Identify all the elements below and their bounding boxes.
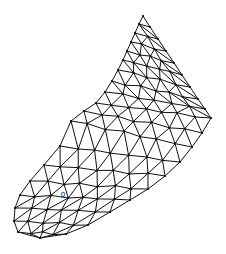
mesh-edge bbox=[110, 153, 113, 170]
mesh-node bbox=[72, 224, 74, 226]
mesh-edge bbox=[182, 75, 190, 87]
mesh-node bbox=[83, 110, 85, 112]
mesh-edge bbox=[148, 160, 163, 173]
mesh-node bbox=[101, 114, 103, 116]
mesh-node bbox=[176, 112, 178, 114]
mesh-node bbox=[146, 65, 148, 67]
mesh-node bbox=[96, 169, 98, 171]
mesh-edge bbox=[163, 160, 165, 176]
mesh-edge bbox=[48, 167, 60, 181]
mesh-node bbox=[165, 50, 167, 52]
mesh-edge bbox=[83, 197, 97, 199]
mesh-edge bbox=[127, 42, 131, 51]
mesh-node bbox=[147, 35, 149, 37]
mesh-edge bbox=[78, 210, 95, 212]
mesh-edge bbox=[124, 131, 129, 155]
mesh-node bbox=[58, 221, 60, 223]
mesh-edge bbox=[60, 167, 78, 168]
mesh-node bbox=[117, 115, 119, 117]
mesh-edge bbox=[60, 149, 78, 167]
mesh-edge bbox=[185, 117, 195, 129]
mesh-edge bbox=[102, 115, 118, 116]
mesh-node bbox=[160, 111, 162, 113]
mesh-node bbox=[87, 224, 89, 226]
mesh-node bbox=[147, 172, 149, 174]
mesh-edge bbox=[139, 16, 143, 24]
mesh-edge bbox=[152, 112, 162, 122]
mesh-edge bbox=[105, 92, 123, 94]
mesh-node bbox=[59, 145, 61, 147]
mesh-node bbox=[204, 108, 206, 110]
mesh-edge bbox=[129, 108, 134, 122]
mesh-edge bbox=[129, 174, 131, 189]
mesh-edge bbox=[125, 85, 140, 86]
mesh-edge bbox=[152, 122, 157, 139]
mesh-node bbox=[179, 161, 181, 163]
mesh-edge bbox=[140, 55, 150, 56]
mesh-node bbox=[157, 38, 159, 40]
mesh-node bbox=[39, 237, 41, 239]
mesh-node bbox=[137, 97, 139, 99]
mesh-edge bbox=[131, 173, 148, 189]
mesh-node bbox=[67, 197, 69, 199]
mesh-edge bbox=[112, 70, 118, 81]
mesh-edge bbox=[147, 157, 163, 160]
mesh-edge bbox=[169, 113, 177, 128]
mesh-edge bbox=[110, 131, 124, 153]
mesh-edge bbox=[87, 124, 94, 151]
mesh-node bbox=[60, 209, 62, 211]
mesh-node bbox=[104, 91, 106, 93]
mesh-edge bbox=[32, 208, 47, 209]
mesh-edge bbox=[138, 98, 146, 109]
mesh-edge bbox=[114, 199, 130, 200]
mesh-node bbox=[140, 85, 142, 87]
mesh-edge bbox=[133, 122, 151, 123]
mesh-edge bbox=[78, 168, 97, 171]
mesh-edge bbox=[113, 170, 115, 185]
mesh-edge bbox=[79, 183, 97, 187]
mesh-node bbox=[114, 185, 116, 187]
mesh-node bbox=[96, 186, 98, 188]
mesh-node bbox=[133, 62, 135, 64]
mesh-edge bbox=[114, 186, 115, 200]
mesh-node bbox=[132, 120, 134, 122]
mesh-edge bbox=[71, 121, 87, 124]
mesh-node bbox=[139, 136, 141, 138]
mesh-node bbox=[127, 154, 129, 156]
mesh-edge bbox=[163, 144, 176, 161]
mesh-edge bbox=[95, 199, 97, 212]
mesh-node bbox=[164, 175, 166, 177]
mesh-edge bbox=[78, 199, 97, 210]
mesh-edge bbox=[141, 36, 147, 43]
mesh-edge bbox=[105, 81, 112, 92]
mesh-node bbox=[31, 207, 33, 209]
mesh-edge bbox=[71, 121, 78, 149]
mesh-edge bbox=[43, 232, 53, 235]
mesh-node bbox=[145, 108, 147, 110]
mesh-edge bbox=[68, 197, 83, 198]
mesh-node bbox=[65, 233, 67, 235]
mesh-node bbox=[124, 84, 126, 86]
mesh-edge bbox=[96, 103, 102, 115]
mesh-edge bbox=[95, 199, 114, 212]
mesh-edge bbox=[114, 189, 130, 199]
mesh-edge bbox=[96, 92, 105, 103]
mesh-diagram: 0 bbox=[0, 0, 226, 254]
mesh-edge bbox=[111, 105, 128, 107]
mesh-edge bbox=[71, 111, 84, 121]
mesh-edge bbox=[129, 155, 130, 174]
mesh-edge bbox=[180, 147, 192, 162]
mesh-node bbox=[96, 198, 98, 200]
mesh-edge bbox=[156, 139, 162, 160]
mesh-edge bbox=[87, 115, 102, 124]
mesh-edge bbox=[95, 150, 97, 170]
mesh-node bbox=[129, 199, 131, 201]
mesh-edge bbox=[156, 139, 175, 144]
mesh-node bbox=[104, 128, 106, 130]
mesh-edge bbox=[51, 195, 68, 198]
mesh-edge bbox=[163, 160, 180, 162]
mesh-edge bbox=[175, 144, 180, 162]
mesh-node bbox=[138, 23, 140, 25]
mesh-node bbox=[155, 138, 157, 140]
mesh-node bbox=[113, 198, 115, 200]
